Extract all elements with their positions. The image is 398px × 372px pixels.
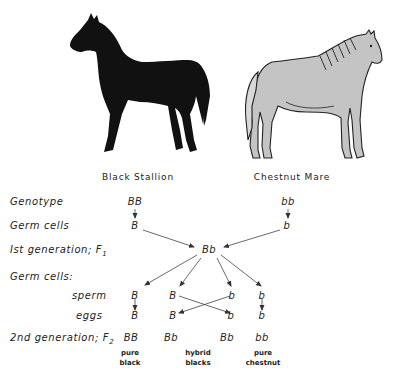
- pure-black-line-1: pure: [120, 348, 141, 358]
- pure-chestnut-line-2: chestnut: [246, 358, 281, 368]
- eggs-label: eggs: [76, 310, 102, 321]
- pure-black-caption: pure black: [120, 348, 141, 368]
- parent-left-genotype: BB: [128, 196, 143, 207]
- sperm-allele-4: b: [259, 290, 266, 301]
- germ-cells-2-label: Germ cells:: [10, 271, 73, 282]
- germ-left-genotype: B: [131, 220, 138, 231]
- hybrid-blacks-caption: hybrid blacks: [185, 348, 210, 368]
- f2-genotype-4: bb: [255, 332, 269, 343]
- egg-allele-1: B: [131, 310, 138, 321]
- genetics-diagram: Black Stallion Chestnut Mare Genotype Ge…: [0, 0, 398, 372]
- hybrid-blacks-line-1: hybrid: [185, 348, 210, 358]
- f1-label: Ist generation; F1: [10, 244, 107, 258]
- pure-chestnut-line-1: pure: [246, 348, 281, 358]
- egg-allele-4: b: [259, 310, 266, 321]
- pure-chestnut-caption: pure chestnut: [246, 348, 281, 368]
- horse-illustrations: [0, 0, 398, 372]
- egg-allele-3: b: [228, 310, 235, 321]
- f2-genotype-1: BB: [124, 332, 139, 343]
- black-stallion-caption: Black Stallion: [102, 172, 174, 182]
- f1-subscript: 1: [102, 250, 107, 258]
- f1-label-text: Ist generation; F: [10, 244, 102, 255]
- pure-black-line-2: black: [120, 358, 141, 368]
- black-stallion-icon: [70, 13, 210, 152]
- parent-right-genotype: bb: [281, 196, 295, 207]
- f2-subscript: 2: [109, 338, 114, 346]
- egg-allele-2: B: [169, 310, 176, 321]
- germ-right-genotype: b: [284, 220, 291, 231]
- f2-label-text: 2nd generation; F: [10, 332, 109, 343]
- f2-genotype-2: Bb: [164, 332, 178, 343]
- sperm-allele-3: b: [229, 290, 236, 301]
- chestnut-mare-icon: [246, 30, 383, 158]
- sperm-allele-1: B: [131, 290, 138, 301]
- sperm-allele-2: B: [169, 290, 176, 301]
- genotype-label: Genotype: [10, 196, 64, 207]
- hybrid-blacks-line-2: blacks: [185, 358, 210, 368]
- chestnut-mare-caption: Chestnut Mare: [254, 172, 330, 182]
- germ-cells-label: Germ cells: [10, 220, 69, 231]
- sperm-label: sperm: [72, 290, 107, 301]
- f2-label: 2nd generation; F2: [10, 332, 114, 346]
- f1-genotype: Bb: [202, 244, 216, 255]
- f2-genotype-3: Bb: [220, 332, 234, 343]
